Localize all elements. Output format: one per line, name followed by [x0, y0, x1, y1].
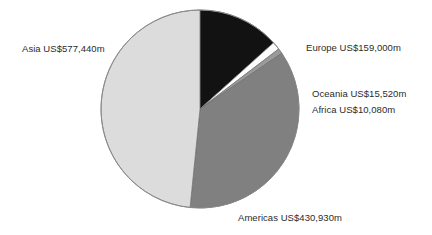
slice-label-oceania: Oceania US$15,520m	[312, 88, 406, 100]
pie-slice-group	[101, 10, 299, 208]
slice-label-americas: Americas US$430,930m	[238, 212, 342, 224]
slice-label-africa: Africa US$10,080m	[312, 104, 395, 116]
slice-label-asia: Asia US$577,440m	[22, 43, 105, 55]
pie-slice-asia	[101, 10, 200, 208]
pie-chart: Asia US$577,440m Europe US$159,000m Ocea…	[0, 0, 432, 235]
pie-chart-page: Asia US$577,440m Europe US$159,000m Ocea…	[0, 0, 432, 235]
pie-chart-svg	[0, 0, 432, 235]
slice-label-europe: Europe US$159,000m	[306, 42, 401, 54]
